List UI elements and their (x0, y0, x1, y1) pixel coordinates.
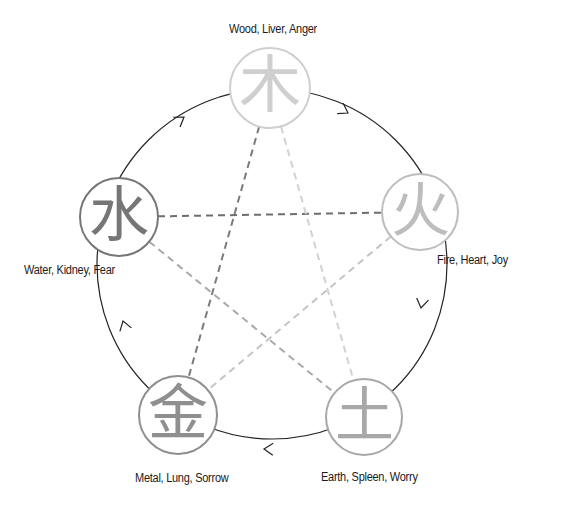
metal-label: Metal, Lung, Sorrow (135, 471, 228, 485)
wood-label: Wood, Liver, Anger (229, 22, 317, 36)
controlling-cycle-lines (149, 126, 391, 393)
earth-label: Earth, Spleen, Worry (321, 470, 418, 484)
control-line-water-earth (149, 242, 334, 393)
wood-glyph-icon: 木 (230, 55, 310, 117)
fire-label: Fire, Heart, Joy (437, 253, 508, 267)
arrow-icon (415, 298, 428, 309)
arrow-icon (117, 319, 131, 331)
water-label: Water, Kidney, Fear (24, 263, 115, 277)
metal-glyph-icon: 金 (139, 383, 217, 443)
water-glyph-icon: 水 (80, 185, 158, 245)
earth-glyph-icon: 土 (326, 386, 402, 445)
control-line-water-fire (158, 213, 382, 217)
fire-glyph-icon: 火 (382, 181, 458, 240)
control-line-wood-metal (189, 127, 260, 378)
arrow-icon (337, 103, 351, 118)
control-line-wood-earth (281, 126, 354, 380)
arrow-icon (264, 443, 273, 455)
